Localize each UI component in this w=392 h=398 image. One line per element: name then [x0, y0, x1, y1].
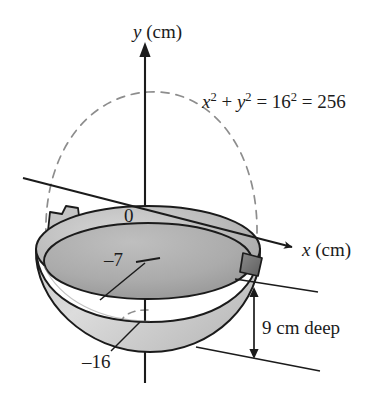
liquid-surface [44, 223, 252, 299]
equation-radius: 16 [272, 91, 291, 112]
depth-annotation-label: 9 cm deep [262, 318, 340, 337]
circle-equation-label: x2 + y2 = 162 = 256 [202, 92, 346, 111]
diagram-canvas [0, 0, 392, 398]
equation-equals-1: = [252, 91, 272, 112]
y-axis-label-unit: (cm) [141, 21, 182, 42]
y-axis-label: y (cm) [133, 22, 182, 41]
y-tick-label-minus16: –16 [82, 352, 111, 371]
bowl-tab [240, 253, 262, 276]
y-axis-arrowhead [139, 42, 150, 57]
equation-equals-2: = [297, 91, 317, 112]
y-tick-label-minus7: –7 [104, 250, 123, 269]
x-axis-label-unit: (cm) [310, 239, 351, 260]
x-axis-label: x (cm) [302, 240, 351, 259]
equation-plus: + [217, 91, 237, 112]
depth-dimension-arrow [249, 287, 258, 359]
origin-label: 0 [124, 206, 134, 225]
bowl-diagram-figure: y (cm) x (cm) x2 + y2 = 162 = 256 0 –7 –… [0, 0, 392, 398]
equation-result: 256 [317, 91, 346, 112]
